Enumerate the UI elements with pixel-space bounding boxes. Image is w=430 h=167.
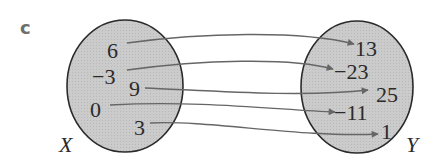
domain-value: 9 [129,76,140,101]
domain-value: 6 [107,38,118,63]
codomain-value: 13 [355,36,377,61]
diagram-canvas: 6 −3 9 0 3 13 −23 25 −11 1 X Y [0,0,430,167]
mapping-diagram: c 6 −3 9 0 3 13 −23 [0,0,430,167]
codomain-value: −11 [334,100,368,125]
domain-set-label: X [58,132,74,157]
codomain-set-label: Y [406,132,421,157]
codomain-value: 25 [376,82,398,107]
codomain-value: 1 [381,119,392,144]
domain-set-ellipse [67,20,183,152]
codomain-value: −23 [334,59,368,84]
domain-value: −3 [92,64,115,89]
domain-value: 0 [90,97,101,122]
domain-value: 3 [134,115,145,140]
part-label: c [20,17,31,38]
